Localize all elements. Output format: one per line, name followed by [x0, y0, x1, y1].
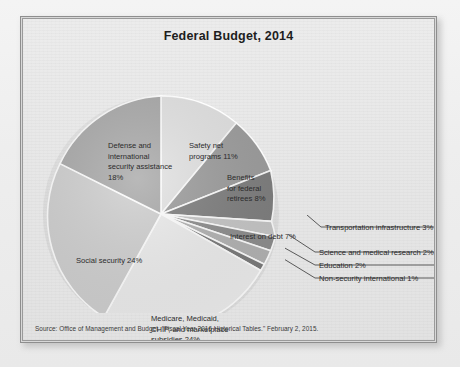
- callout-labels-group: Transportation infrastructure 3% Science…: [285, 215, 434, 295]
- slice-label-defense: Defense and international security assis…: [108, 141, 200, 183]
- figure-frame: Federal Budget, 2014: [20, 16, 437, 343]
- figure-inner-panel: Federal Budget, 2014: [23, 19, 434, 340]
- slice-label-social-security: Social security 24%: [76, 256, 176, 267]
- callout-education: Education 2%: [319, 261, 366, 270]
- slice-label-safety-net: Safety net programs 11%: [189, 141, 259, 162]
- source-note: Source: Office of Management and Budget.…: [35, 325, 318, 332]
- callout-transportation-infrastructure: Transportation infrastructure 3%: [325, 223, 433, 232]
- pie-chart: Defense and international security assis…: [31, 63, 291, 313]
- slice-label-benefits-federal-retirees: Benefits for federal retirees 8%: [227, 173, 279, 205]
- callout-non-security-international: Non-security international 1%: [319, 274, 418, 283]
- chart-title: Federal Budget, 2014: [23, 29, 434, 43]
- callout-science-medical-research: Science and medical research 2%: [319, 248, 434, 257]
